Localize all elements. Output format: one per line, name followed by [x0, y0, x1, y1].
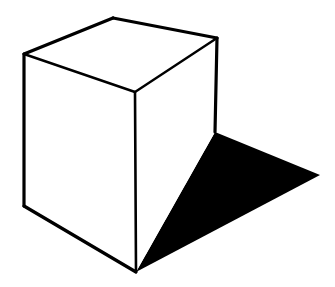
cube-illustration: Cube with cast shadow Line drawing of a … [0, 0, 335, 287]
edge-right-vertical [215, 38, 217, 132]
cube-figure-svg: Cube with cast shadow Line drawing of a … [0, 0, 335, 287]
edge-front-vertical [135, 92, 136, 272]
